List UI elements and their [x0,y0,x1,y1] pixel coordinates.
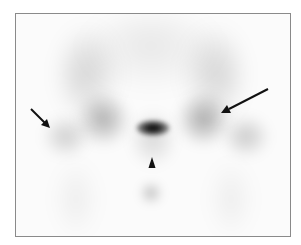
left-arrow-icon [31,109,50,128]
arrowhead-up-icon [149,157,156,168]
right-arrow-icon [221,89,268,113]
annotation-overlay [0,0,301,245]
